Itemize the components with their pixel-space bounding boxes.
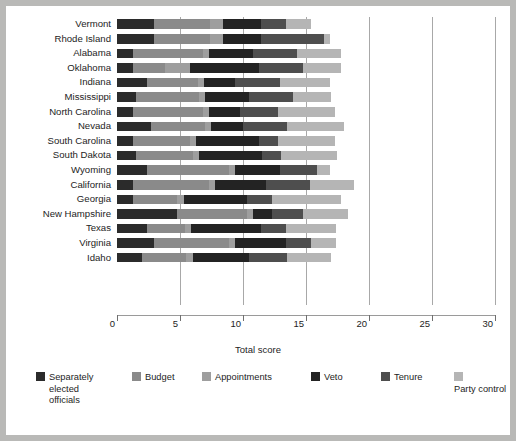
legend-item[interactable]: Veto: [311, 372, 386, 384]
bar-segment[interactable]: [196, 136, 259, 146]
bar-segment[interactable]: [287, 253, 331, 263]
stacked-bar[interactable]: [117, 136, 335, 146]
bar-segment[interactable]: [280, 78, 330, 88]
bar-segment[interactable]: [133, 195, 177, 205]
bar-segment[interactable]: [286, 19, 311, 29]
bar-row[interactable]: California: [117, 178, 495, 193]
stacked-bar[interactable]: [117, 63, 341, 73]
bar-segment[interactable]: [117, 195, 133, 205]
bar-segment[interactable]: [142, 253, 186, 263]
bar-segment[interactable]: [191, 224, 260, 234]
bar-segment[interactable]: [209, 49, 253, 59]
stacked-bar[interactable]: [117, 49, 341, 59]
bar-row[interactable]: Virginia: [117, 236, 495, 251]
bar-segment[interactable]: [249, 92, 293, 102]
bar-segment[interactable]: [259, 63, 303, 73]
bar-segment[interactable]: [147, 224, 185, 234]
bar-segment[interactable]: [117, 209, 177, 219]
bar-segment[interactable]: [177, 209, 246, 219]
bar-row[interactable]: South Dakota: [117, 148, 495, 163]
stacked-bar[interactable]: [117, 34, 330, 44]
bar-segment[interactable]: [261, 34, 324, 44]
bar-segment[interactable]: [184, 195, 247, 205]
bar-segment[interactable]: [235, 165, 279, 175]
bar-segment[interactable]: [243, 122, 287, 132]
bar-segment[interactable]: [147, 78, 197, 88]
bar-segment[interactable]: [235, 78, 279, 88]
bar-row[interactable]: Vermont: [117, 17, 495, 32]
bar-segment[interactable]: [223, 34, 261, 44]
stacked-bar[interactable]: [117, 107, 335, 117]
bar-segment[interactable]: [262, 151, 281, 161]
bar-row[interactable]: Texas: [117, 221, 495, 236]
bar-segment[interactable]: [261, 224, 286, 234]
stacked-bar[interactable]: [117, 165, 330, 175]
stacked-bar[interactable]: [117, 122, 344, 132]
legend-item[interactable]: Tenure: [381, 372, 456, 384]
bar-segment[interactable]: [324, 34, 330, 44]
bar-segment[interactable]: [303, 63, 341, 73]
bar-segment[interactable]: [281, 151, 338, 161]
bar-row[interactable]: Oklahoma: [117, 61, 495, 76]
bar-segment[interactable]: [133, 107, 202, 117]
bar-segment[interactable]: [235, 238, 285, 248]
bar-segment[interactable]: [249, 253, 287, 263]
bar-row[interactable]: Mississippi: [117, 90, 495, 105]
bar-segment[interactable]: [154, 19, 211, 29]
bar-segment[interactable]: [297, 49, 341, 59]
bar-segment[interactable]: [117, 238, 154, 248]
bar-segment[interactable]: [272, 195, 341, 205]
legend-item[interactable]: Appointments: [202, 372, 277, 384]
bar-segment[interactable]: [310, 180, 354, 190]
bar-segment[interactable]: [278, 107, 335, 117]
bar-segment[interactable]: [211, 122, 243, 132]
legend-item[interactable]: Separately elected officials: [36, 372, 111, 407]
bar-row[interactable]: Alabama: [117, 46, 495, 61]
bar-segment[interactable]: [117, 19, 154, 29]
bar-segment[interactable]: [136, 151, 193, 161]
bar-segment[interactable]: [117, 136, 133, 146]
stacked-bar[interactable]: [117, 151, 337, 161]
stacked-bar[interactable]: [117, 209, 348, 219]
bar-segment[interactable]: [253, 49, 297, 59]
bar-segment[interactable]: [165, 63, 190, 73]
stacked-bar[interactable]: [117, 180, 354, 190]
bar-segment[interactable]: [147, 165, 229, 175]
bar-segment[interactable]: [210, 34, 223, 44]
stacked-bar[interactable]: [117, 78, 330, 88]
bar-segment[interactable]: [117, 224, 147, 234]
bar-segment[interactable]: [117, 165, 147, 175]
bar-segment[interactable]: [117, 253, 142, 263]
bar-row[interactable]: Indiana: [117, 75, 495, 90]
bar-segment[interactable]: [133, 63, 165, 73]
bar-segment[interactable]: [253, 209, 272, 219]
bar-row[interactable]: Idaho: [117, 251, 495, 266]
bar-segment[interactable]: [117, 78, 147, 88]
bar-segment[interactable]: [210, 19, 223, 29]
legend-item[interactable]: Party control: [454, 372, 516, 395]
bar-segment[interactable]: [117, 92, 136, 102]
bar-segment[interactable]: [223, 19, 261, 29]
stacked-bar[interactable]: [117, 253, 331, 263]
bar-segment[interactable]: [272, 209, 304, 219]
bar-segment[interactable]: [278, 136, 335, 146]
bar-segment[interactable]: [259, 136, 278, 146]
bar-segment[interactable]: [117, 34, 154, 44]
bar-row[interactable]: Nevada: [117, 119, 495, 134]
bar-segment[interactable]: [311, 238, 336, 248]
bar-segment[interactable]: [205, 92, 249, 102]
bar-segment[interactable]: [293, 92, 331, 102]
bar-segment[interactable]: [215, 180, 265, 190]
bar-segment[interactable]: [266, 180, 310, 190]
bar-segment[interactable]: [133, 180, 209, 190]
bar-row[interactable]: Wyoming: [117, 163, 495, 178]
bar-segment[interactable]: [117, 49, 133, 59]
stacked-bar[interactable]: [117, 195, 341, 205]
bar-segment[interactable]: [154, 34, 211, 44]
bar-segment[interactable]: [303, 209, 347, 219]
bar-segment[interactable]: [117, 122, 151, 132]
bar-segment[interactable]: [204, 78, 236, 88]
bar-segment[interactable]: [280, 165, 318, 175]
bar-segment[interactable]: [286, 224, 336, 234]
bar-segment[interactable]: [154, 238, 230, 248]
